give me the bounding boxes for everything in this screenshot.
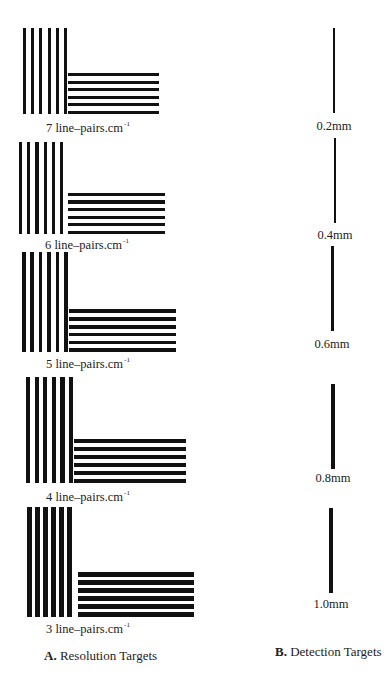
vertical-bar <box>35 377 39 483</box>
horizontal-bar <box>68 96 159 99</box>
horizontal-bar <box>78 604 194 609</box>
horizontal-bar <box>69 333 176 337</box>
vertical-bar <box>44 142 47 234</box>
horizontal-bar <box>68 193 165 196</box>
resolution-target-label: 3 line–pairs.cm-1 <box>46 621 130 637</box>
horizontal-bar <box>68 103 159 106</box>
detection-line-label: 1.0mm <box>313 597 348 612</box>
horizontal-bar <box>74 439 186 443</box>
detection-line-1.0mm <box>329 508 334 593</box>
horizontal-bar <box>78 596 194 601</box>
horizontal-bar <box>74 455 186 459</box>
vertical-bar <box>27 507 32 617</box>
vertical-bar <box>56 28 59 114</box>
caption-text-b: Detection Targets <box>287 644 382 659</box>
horizontal-bar <box>78 588 194 593</box>
detection-line-label: 0.4mm <box>317 228 352 243</box>
vertical-bar <box>23 28 26 114</box>
horizontal-bar <box>74 471 186 475</box>
vertical-bar <box>51 507 56 617</box>
vertical-bar <box>64 252 68 352</box>
horizontal-bar <box>68 200 165 203</box>
horizontal-bar <box>69 309 176 313</box>
vertical-bar <box>22 252 26 352</box>
horizontal-bar <box>68 208 165 211</box>
vertical-bar <box>43 507 48 617</box>
vertical-bar <box>69 377 73 483</box>
vertical-bar <box>35 507 40 617</box>
horizontal-bar <box>68 81 159 84</box>
vertical-bar <box>47 252 51 352</box>
vertical-bar <box>30 252 34 352</box>
resolution-target-label: 6 line–pairs.cm-1 <box>45 237 129 253</box>
resolution-target-label: 4 line–pairs.cm-1 <box>46 489 130 505</box>
vertical-bar <box>59 507 64 617</box>
vertical-bar <box>64 28 67 114</box>
caption-detection-targets: B. Detection Targets <box>275 644 382 660</box>
resolution-target-label: 7 line–pairs.cm-1 <box>46 120 130 136</box>
vertical-bar <box>60 142 63 234</box>
detection-line-label: 0.2mm <box>316 119 351 134</box>
vertical-bar <box>26 377 30 483</box>
detection-line-0.4mm <box>334 138 336 223</box>
horizontal-bar <box>74 463 186 467</box>
horizontal-bar <box>78 572 194 577</box>
caption-letter-a: A. <box>44 648 57 663</box>
horizontal-bar <box>78 580 194 585</box>
detection-line-0.2mm <box>333 28 334 113</box>
vertical-bar <box>52 377 56 483</box>
caption-letter-b: B. <box>275 644 287 659</box>
horizontal-bar <box>69 317 176 321</box>
caption-resolution-targets: A. Resolution Targets <box>44 648 157 664</box>
horizontal-bar <box>69 325 176 329</box>
vertical-bar <box>35 142 38 234</box>
horizontal-bar <box>68 216 165 219</box>
vertical-bar <box>39 252 43 352</box>
vertical-bar <box>48 28 51 114</box>
detection-line-label: 0.6mm <box>314 337 349 352</box>
vertical-bar <box>27 142 30 234</box>
horizontal-bar <box>68 223 165 226</box>
vertical-bar <box>43 377 47 483</box>
vertical-bar <box>67 507 72 617</box>
caption-text-a: Resolution Targets <box>57 648 157 663</box>
horizontal-bar <box>68 231 165 234</box>
horizontal-bar <box>68 88 159 91</box>
vertical-bar <box>31 28 34 114</box>
detection-line-0.6mm <box>331 246 334 331</box>
resolution-target-label: 5 line–pairs.cm-1 <box>46 356 130 372</box>
horizontal-bar <box>74 447 186 451</box>
horizontal-bar <box>68 111 159 114</box>
horizontal-bar <box>68 73 159 76</box>
vertical-bar <box>52 142 55 234</box>
vertical-bar <box>60 377 64 483</box>
horizontal-bar <box>74 479 186 483</box>
horizontal-bar <box>78 612 194 617</box>
horizontal-bar <box>69 341 176 345</box>
vertical-bar <box>19 142 22 234</box>
detection-line-label: 0.8mm <box>315 471 350 486</box>
vertical-bar <box>39 28 42 114</box>
horizontal-bar <box>69 348 176 352</box>
detection-line-0.8mm <box>331 384 335 469</box>
vertical-bar <box>56 252 60 352</box>
